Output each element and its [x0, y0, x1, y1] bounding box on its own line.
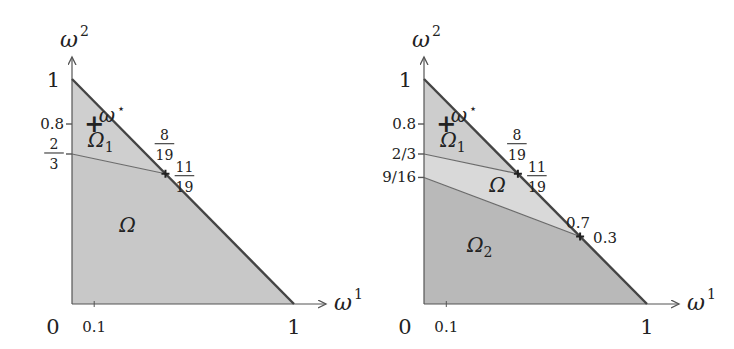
region-label-subscript: 1: [457, 139, 466, 155]
intersection-x-label: 0.7: [566, 214, 590, 232]
x-axis-label-base: ω: [334, 290, 352, 315]
x-axis-label-sup: 1: [354, 286, 363, 302]
intersection-y-label: 1119: [527, 159, 547, 195]
intersection-x-label: 819: [155, 127, 175, 163]
origin-label: 0: [46, 315, 59, 339]
intersection-x-label-denominator: 19: [156, 147, 174, 163]
y-axis-label-base: ω: [412, 27, 430, 52]
region-label-omega: Ω: [488, 173, 506, 197]
x-axis-label-sup: 1: [707, 286, 716, 302]
region-label-omega: Ω: [87, 128, 105, 152]
y-tick-label-fraction-denominator: 3: [50, 156, 59, 172]
y-tick-label: 0.8: [40, 115, 64, 133]
y-tick-label-fraction: 23: [44, 136, 64, 172]
intersection-y-label-numerator: 11: [528, 159, 546, 175]
intersection-y-label-denominator: 19: [176, 179, 194, 195]
intersection-y-label-denominator: 19: [528, 179, 546, 195]
y-tick-label: 9/16: [382, 168, 416, 186]
y-tick-label: 1: [47, 68, 60, 92]
x-tick-label: 0.1: [82, 318, 106, 336]
region-label-omega: Ω: [118, 213, 136, 237]
y-axis-label-sup: 2: [432, 23, 441, 39]
right-panel: ω1ω200.1110.82/39/16ω⋆+Ω1ΩΩ281911190.70.…: [382, 23, 716, 339]
intersection-x-label-numerator: 8: [512, 127, 521, 143]
region-label-subscript: 2: [484, 244, 493, 260]
region-label: Ω: [488, 173, 506, 197]
y-tick-label: 0.8: [392, 115, 416, 133]
y-axis-label-sup: 2: [80, 23, 89, 39]
region-omega: [72, 154, 294, 304]
intersection-x-label: 819: [507, 127, 527, 163]
intersection-y-label: 1119: [175, 159, 195, 195]
x-tick-label: 0.1: [434, 318, 458, 336]
y-tick-label-fraction-numerator: 2: [50, 136, 59, 152]
y-tick-label: 1: [399, 68, 412, 92]
y-tick-label: 2/3: [392, 145, 416, 163]
region-label: Ω: [118, 213, 136, 237]
region-label-omega: Ω: [466, 233, 484, 257]
intersection-x-label-denominator: 19: [508, 147, 526, 163]
y-axis-label-base: ω: [60, 27, 78, 52]
x-axis-label-base: ω: [687, 290, 705, 315]
x-axis-label: ω1: [334, 286, 363, 315]
y-axis-label: ω2: [60, 23, 89, 52]
intersection-y-label: 0.3: [593, 229, 617, 247]
intersection-y-label-numerator: 11: [176, 159, 194, 175]
x-axis-label: ω1: [687, 286, 716, 315]
frontier-label-sup: ⋆: [117, 101, 125, 116]
intersection-x-label-numerator: 8: [160, 127, 169, 143]
left-panel: ω1ω200.1110.823ω⋆+Ω1Ω8191119: [40, 23, 363, 339]
region-label-omega: Ω: [439, 128, 457, 152]
y-axis-label: ω2: [412, 23, 441, 52]
x-tick-label: 1: [287, 315, 300, 339]
pareto-region-figure: ω1ω200.1110.823ω⋆+Ω1Ω8191119 ω1ω200.1110…: [0, 0, 734, 349]
origin-label: 0: [398, 315, 411, 339]
x-tick-label: 1: [640, 315, 653, 339]
frontier-label-sup: ⋆: [469, 101, 477, 116]
region-label-subscript: 1: [105, 139, 114, 155]
